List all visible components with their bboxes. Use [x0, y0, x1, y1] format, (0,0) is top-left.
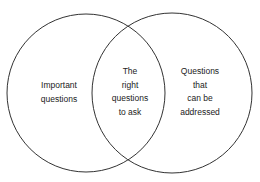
- right-set-label: Questions that can be addressed: [180, 65, 220, 119]
- right-label-line: can be: [180, 92, 220, 106]
- intersection-label-line: The: [112, 65, 148, 79]
- right-label-line: that: [180, 79, 220, 93]
- intersection-label-line: to ask: [112, 106, 148, 120]
- left-label-line: Important: [41, 79, 77, 93]
- left-set-label: Important questions: [41, 79, 77, 106]
- intersection-label: The right questions to ask: [112, 65, 148, 119]
- right-label-line: addressed: [180, 106, 220, 120]
- right-label-line: Questions: [180, 65, 220, 79]
- intersection-label-line: questions: [112, 92, 148, 106]
- venn-diagram: Important questions The right questions …: [0, 0, 260, 182]
- intersection-label-line: right: [112, 79, 148, 93]
- left-label-line: questions: [41, 92, 77, 106]
